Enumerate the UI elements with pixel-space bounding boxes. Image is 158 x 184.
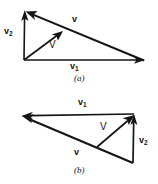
caption-panel-b: (b) [74, 166, 85, 175]
vector-v1-b [22, 112, 135, 120]
vector-diagram-figure: v1 v2 v V (a) v1 [0, 0, 158, 184]
vector-v1-a [24, 56, 145, 64]
label-V-capital-a: V [49, 40, 56, 49]
label-v1-a: v1 [70, 62, 79, 71]
label-v2-b: v2 [139, 136, 148, 145]
label-v1-b: v1 [78, 98, 87, 107]
label-v2-a: v2 [4, 27, 13, 36]
caption-panel-a: (a) [74, 74, 85, 83]
vector-V-capital-a [24, 31, 63, 60]
label-v-small-a: v [72, 15, 77, 24]
label-v-small-b: v [74, 148, 79, 157]
label-V-capital-b: V [100, 122, 107, 131]
vector-v-small-a [26, 11, 144, 61]
vector-v2-a [21, 10, 28, 60]
vector-v2-b [130, 114, 137, 163]
